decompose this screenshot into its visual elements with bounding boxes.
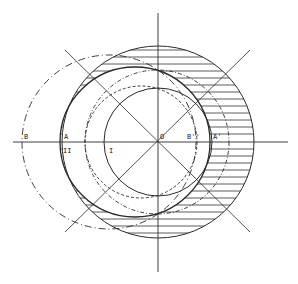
label-B-double-prime: B'' [187, 133, 200, 141]
label-A-prime: A' [213, 133, 221, 141]
label-B: B [24, 133, 28, 141]
circle-construction-diagram: B A O B'' A' II I [0, 0, 298, 284]
hatching [40, 50, 270, 233]
labels: B A O B'' A' II I [24, 133, 221, 155]
label-I: I [109, 147, 113, 155]
label-A: A [64, 133, 69, 141]
label-II: II [63, 147, 71, 155]
label-O: O [160, 133, 164, 141]
